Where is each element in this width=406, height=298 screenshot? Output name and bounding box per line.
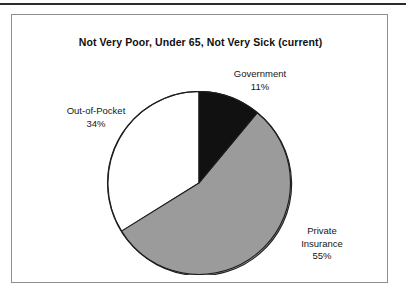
figure-screenshot: Not Very Poor, Under 65, Not Very Sick (… bbox=[0, 0, 406, 298]
pie-label-out-of-pocket: Out-of-Pocket 34% bbox=[45, 105, 147, 130]
top-horizontal-rule bbox=[0, 3, 406, 5]
pie-label-out-of-pocket-value: 34% bbox=[45, 118, 147, 131]
pie-label-government: Government 11% bbox=[208, 68, 312, 93]
chart-title: Not Very Poor, Under 65, Not Very Sick (… bbox=[12, 36, 389, 48]
figure-frame: Not Very Poor, Under 65, Not Very Sick (… bbox=[11, 14, 388, 283]
pie-label-private-insurance-name-line1: Private bbox=[307, 225, 337, 236]
pie-label-out-of-pocket-name: Out-of-Pocket bbox=[67, 105, 126, 116]
pie-label-government-name: Government bbox=[234, 68, 286, 79]
pie-label-private-insurance-name-line2: Insurance bbox=[274, 238, 370, 251]
pie-label-private-insurance: Private Insurance 55% bbox=[274, 225, 370, 263]
pie-label-private-insurance-value: 55% bbox=[274, 250, 370, 263]
pie-label-government-value: 11% bbox=[208, 81, 312, 94]
